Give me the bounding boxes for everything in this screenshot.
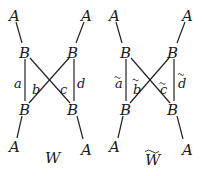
edge-label-b-tilde: b [133,82,141,97]
node-a-top-left: A [7,7,20,25]
diagram-w-tilde: A A B B B B A A a b c d W [107,7,193,169]
edge-a-top-right-to-b [177,22,185,43]
node-a-top-left: A [107,7,120,25]
edge-b-bottom-right-to-a [177,116,183,139]
edge-label-a: a [14,76,22,91]
edge-a-top-left-to-b [16,22,22,43]
diagram-title-w-tilde: W [145,151,162,169]
node-a-bottom-left: A [7,138,20,156]
node-a-bottom-right: A [79,141,92,159]
node-a-bottom-right: A [180,141,193,159]
node-a-top-right: A [180,7,193,25]
node-a-top-right: A [79,7,92,25]
edge-b-bottom-right-to-a [77,116,83,139]
edge-label-d: d [77,76,85,91]
node-b-top-right: B [166,44,178,62]
edge-a-top-left-to-b [116,22,122,43]
diagram-title-w: W [45,149,62,167]
node-b-bottom-right: B [166,101,178,119]
node-b-top-right: B [66,44,78,62]
edge-b-bottom-left-to-a [118,116,123,138]
edge-label-c: c [60,82,68,97]
node-b-bottom-right: B [66,101,78,119]
tilde-mark-b [133,79,139,81]
edge-a-top-right-to-b [76,22,84,43]
node-b-bottom-left: B [18,101,30,119]
diagram-w: A A B B B B A A a b c d W [7,7,92,167]
edge-label-d-tilde: d [178,76,186,91]
node-b-top-left: B [18,44,30,62]
edge-label-b: b [32,82,40,97]
node-b-bottom-left: B [119,101,131,119]
edge-b-bottom-left-to-a [17,116,22,138]
diagram-canvas: A A B B B B A A a b c d W A A B B B B A … [0,0,202,176]
node-a-bottom-left: A [107,138,120,156]
node-b-top-left: B [119,44,131,62]
